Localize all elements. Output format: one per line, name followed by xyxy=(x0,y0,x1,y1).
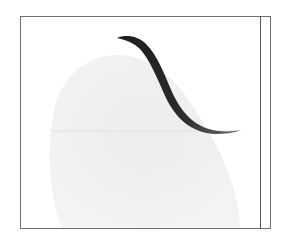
illustration-canvas xyxy=(0,0,291,244)
shadow-blob xyxy=(50,55,240,228)
